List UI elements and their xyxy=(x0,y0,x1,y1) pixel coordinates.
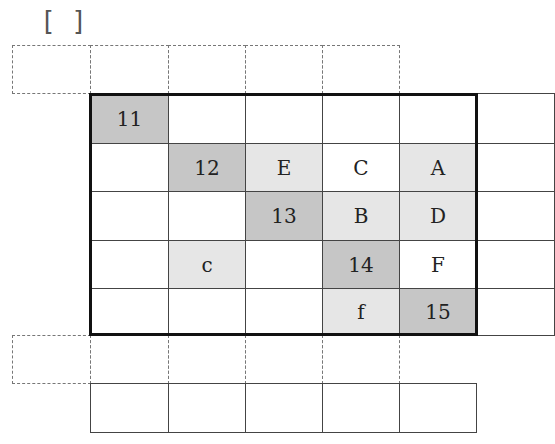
grid-cell xyxy=(476,191,555,241)
grid-cell xyxy=(322,383,400,433)
grid-cell-F: F xyxy=(399,240,477,289)
grid-cell-12: 12 xyxy=(168,143,246,192)
dashed-cell xyxy=(90,335,169,384)
grid-cell xyxy=(245,383,323,433)
dashed-cell xyxy=(90,45,169,94)
grid-cell-11: 11 xyxy=(90,93,169,144)
grid-cell xyxy=(168,288,246,336)
dashed-cell xyxy=(245,335,323,384)
grid-cell xyxy=(168,383,246,433)
grid-cell xyxy=(476,143,555,192)
grid-cell xyxy=(476,240,555,289)
dashed-cell xyxy=(168,335,246,384)
grid-cell xyxy=(90,383,169,433)
grid-cell xyxy=(90,240,169,289)
grid-cell xyxy=(476,93,555,144)
grid-cell-c: c xyxy=(168,240,246,289)
grid-cell-15: 15 xyxy=(399,288,477,336)
grid-cell xyxy=(322,93,400,144)
grid-cell xyxy=(245,240,323,289)
grid-cell-E: E xyxy=(245,143,323,192)
grid-cell xyxy=(476,288,555,336)
grid-cell xyxy=(168,191,246,241)
grid-cell xyxy=(399,93,477,144)
grid-cell-C: C xyxy=(322,143,400,192)
dashed-cell xyxy=(322,335,400,384)
answer-bracket: [ ] xyxy=(40,6,87,36)
grid-cell-A: A xyxy=(399,143,477,192)
grid-cell xyxy=(90,191,169,241)
grid-cell xyxy=(90,288,169,336)
grid-cell xyxy=(245,93,323,144)
dashed-cell xyxy=(12,335,91,384)
dashed-cell xyxy=(245,45,323,94)
grid-cell xyxy=(90,143,169,192)
grid-cell-f: f xyxy=(322,288,400,336)
grid-cell-D: D xyxy=(399,191,477,241)
grid-cell-13: 13 xyxy=(245,191,323,241)
grid-cell-B: B xyxy=(322,191,400,241)
grid-cell xyxy=(168,93,246,144)
dashed-cell xyxy=(168,45,246,94)
grid-cell xyxy=(245,288,323,336)
dashed-cell xyxy=(12,45,91,94)
grid-cell-14: 14 xyxy=(322,240,400,289)
grid-cell xyxy=(399,383,477,433)
dashed-cell xyxy=(322,45,400,94)
